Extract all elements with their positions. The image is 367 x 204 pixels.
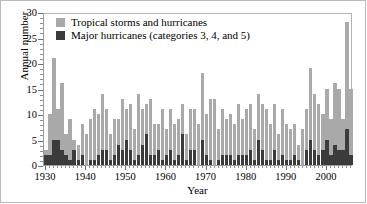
bar-major-hurricanes: [249, 150, 252, 165]
bar-major-hurricanes: [101, 150, 104, 165]
bar-major-hurricanes: [105, 150, 108, 165]
bar-major-hurricanes: [221, 155, 224, 165]
y-tick-label: 0: [32, 161, 37, 171]
x-tick-minor: [129, 166, 130, 168]
bar-group: [269, 12, 272, 165]
x-tick-minor: [173, 166, 174, 168]
legend-label-total: Tropical storms and hurricanes: [71, 17, 207, 28]
bar-major-hurricanes: [261, 150, 264, 165]
bar-major-hurricanes: [265, 160, 268, 165]
x-tick-minor: [189, 166, 190, 168]
x-tick-label: 2000: [315, 171, 336, 182]
legend: Tropical storms and hurricanes Major hur…: [56, 17, 250, 43]
bar-major-hurricanes: [177, 155, 180, 165]
bar-major-hurricanes: [145, 134, 148, 165]
x-tick-label: 1970: [195, 171, 216, 182]
bar-major-hurricanes: [305, 150, 308, 165]
x-tick-minor: [53, 166, 54, 168]
x-tick-minor: [302, 166, 303, 168]
bar-group: [301, 12, 304, 165]
x-tick-minor: [133, 166, 134, 168]
bar-major-hurricanes: [317, 155, 320, 165]
bar-major-hurricanes: [273, 150, 276, 165]
x-tick-mark: [125, 166, 126, 170]
x-tick-minor: [202, 166, 203, 168]
bar-total-storms: [197, 124, 200, 165]
bar-major-hurricanes: [289, 160, 292, 165]
x-tick-label: 1940: [75, 171, 96, 182]
bar-major-hurricanes: [173, 160, 176, 165]
bar-major-hurricanes: [60, 150, 63, 165]
x-tick-minor: [274, 166, 275, 168]
x-tick-minor: [330, 166, 331, 168]
x-tick-minor: [266, 166, 267, 168]
bar-total-storms: [233, 124, 236, 165]
x-tick-minor: [314, 166, 315, 168]
bar-major-hurricanes: [293, 155, 296, 165]
x-tick-mark: [206, 166, 207, 170]
bar-major-hurricanes: [113, 155, 116, 165]
bar-major-hurricanes: [325, 140, 328, 166]
x-tick-minor: [338, 166, 339, 168]
x-tick-minor: [49, 166, 50, 168]
bar-group: [285, 12, 288, 165]
x-tick-minor: [117, 166, 118, 168]
x-tick-minor: [149, 166, 150, 168]
x-tick-minor: [141, 166, 142, 168]
x-tick-minor: [258, 166, 259, 168]
bar-major-hurricanes: [97, 155, 100, 165]
bar-group: [317, 12, 320, 165]
bar-major-hurricanes: [341, 150, 344, 165]
bar-major-hurricanes: [297, 160, 300, 165]
x-tick-minor: [282, 166, 283, 168]
x-tick-minor: [238, 166, 239, 168]
x-tick-minor: [65, 166, 66, 168]
bar-major-hurricanes: [161, 160, 164, 165]
y-tick-label: 5: [32, 136, 37, 146]
x-tick-minor: [242, 166, 243, 168]
x-tick-minor: [81, 166, 82, 168]
x-tick-minor: [101, 166, 102, 168]
bar-group: [253, 12, 256, 165]
x-tick-label: 1930: [35, 171, 56, 182]
bar-group: [281, 12, 284, 165]
bar-major-hurricanes: [56, 140, 59, 166]
bar-total-storms: [209, 99, 212, 165]
x-axis-title: Year: [43, 184, 352, 196]
y-axis-title: Annual number: [18, 0, 30, 106]
bar-major-hurricanes: [321, 150, 324, 165]
bar-group: [309, 12, 312, 165]
bar-total-storms: [85, 134, 88, 165]
bar-major-hurricanes: [89, 160, 92, 165]
bar-group: [313, 12, 316, 165]
x-tick-label: 1960: [155, 171, 176, 182]
legend-swatch-major-icon: [56, 31, 65, 40]
bar-major-hurricanes: [209, 160, 212, 165]
bar-major-hurricanes: [333, 145, 336, 165]
bar-group: [273, 12, 276, 165]
bar-major-hurricanes: [81, 155, 84, 165]
x-tick-minor: [346, 166, 347, 168]
bar-group: [261, 12, 264, 165]
x-tick-minor: [137, 166, 138, 168]
x-tick-minor: [153, 166, 154, 168]
legend-swatch-total-icon: [56, 18, 65, 27]
x-tick-minor: [278, 166, 279, 168]
x-tick-minor: [222, 166, 223, 168]
x-tick-minor: [198, 166, 199, 168]
bar-major-hurricanes: [181, 134, 184, 165]
bar-group: [44, 12, 47, 165]
bar-major-hurricanes: [313, 150, 316, 165]
bar-group: [277, 12, 280, 165]
bar-group: [325, 12, 328, 165]
x-tick-minor: [342, 166, 343, 168]
bar-group: [345, 12, 348, 165]
x-tick-minor: [306, 166, 307, 168]
bar-major-hurricanes: [52, 140, 55, 166]
bar-major-hurricanes: [48, 155, 51, 165]
x-tick-label: 1980: [235, 171, 256, 182]
x-tick-minor: [270, 166, 271, 168]
bar-major-hurricanes: [233, 160, 236, 165]
bar-major-hurricanes: [44, 155, 47, 165]
bar-major-hurricanes: [193, 150, 196, 165]
